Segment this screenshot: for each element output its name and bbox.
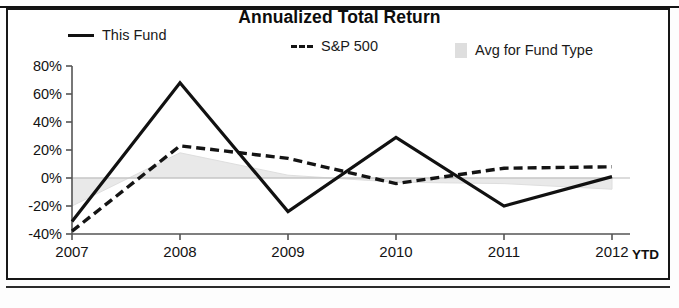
- plot-area: 80%60%40%20%0%-20%-40% 20072008200920102…: [0, 0, 679, 308]
- x-axis-ytd-label: YTD: [632, 247, 659, 262]
- series-line-this-fund: [72, 83, 612, 222]
- x-axis-tick-label: 2008: [163, 243, 196, 260]
- y-axis-tick-label: 80%: [10, 58, 62, 74]
- y-axis-tick-label: -20%: [10, 198, 62, 214]
- x-axis-tick-label: 2010: [379, 243, 412, 260]
- scanned-page: Annualized Total Return This Fund S&P 50…: [0, 0, 679, 308]
- y-axis-tick-label: 20%: [10, 142, 62, 158]
- y-axis-tick-label: -40%: [10, 226, 62, 242]
- y-axis-tick-label: 0%: [10, 170, 62, 186]
- series-line-sp500: [72, 146, 612, 231]
- line-chart-svg: [0, 0, 679, 308]
- x-axis-tick-label: 2012: [595, 243, 628, 260]
- x-axis-tick-label: 2007: [55, 243, 88, 260]
- y-axis-tick-label: 60%: [10, 86, 62, 102]
- y-axis-tick-label: 40%: [10, 114, 62, 130]
- x-axis-tick-label: 2009: [271, 243, 304, 260]
- x-axis-tick-label: 2011: [488, 243, 520, 260]
